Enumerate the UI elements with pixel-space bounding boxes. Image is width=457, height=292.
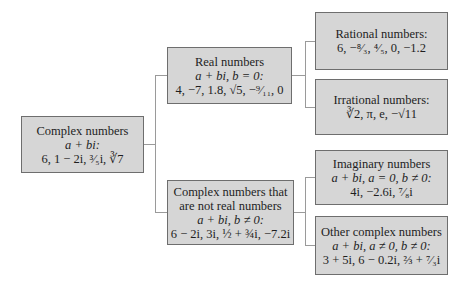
node-form: a + bi, b ≠ 0:	[197, 213, 264, 227]
node-title: Rational numbers:	[336, 27, 428, 41]
connector-to-imaginary	[305, 177, 315, 178]
node-real-numbers: Real numbers a + bi, b = 0: 4, −7, 1.8, …	[167, 47, 292, 104]
connector-complex-branch	[155, 75, 156, 213]
connector-real-stem	[292, 75, 305, 76]
node-other-complex-numbers: Other complex numbers a + bi, a ≠ 0, b ≠…	[315, 216, 448, 275]
connector-to-real	[155, 75, 167, 76]
connector-to-irrational	[305, 107, 315, 108]
connector-complex-stem	[144, 144, 155, 145]
node-form: a + bi, b = 0:	[195, 69, 263, 83]
node-examples: 4i, −2.6i, ⁷⁄₈i	[350, 185, 413, 199]
node-examples: 4, −7, 1.8, √5, −⁹⁄₁₁, 0	[176, 83, 284, 97]
node-irrational-numbers: Irrational numbers: ∛2, π, e, −√11	[315, 79, 448, 135]
node-examples: 3 + 5i, 6 − 0.2i, ⅔ + ⁷⁄₃i	[323, 253, 440, 267]
node-title: Real numbers	[195, 55, 264, 69]
connector-real-branch	[305, 41, 306, 108]
node-examples: 6, −⁸⁄₃, ⁴⁄₅, 0, −1.2	[337, 41, 426, 55]
node-examples: ∛2, π, e, −√11	[346, 107, 417, 121]
node-form: a + bi:	[65, 138, 100, 152]
node-rational-numbers: Rational numbers: 6, −⁸⁄₃, ⁴⁄₅, 0, −1.2	[315, 12, 448, 70]
connector-to-not-real	[155, 212, 167, 213]
node-title: Irrational numbers:	[333, 93, 429, 107]
node-not-real-numbers: Complex numbers that are not real number…	[167, 180, 294, 245]
node-complex-numbers: Complex numbers a + bi: 6, 1 − 2i, ³⁄₅i,…	[21, 116, 144, 173]
node-title: Complex numbers	[36, 124, 128, 138]
node-examples: 6 − 2i, 3i, ½ + ¾i, −7.2i	[171, 227, 290, 241]
node-title-line1: Complex numbers that	[174, 185, 288, 199]
node-title: Imaginary numbers	[333, 157, 431, 171]
node-examples: 6, 1 − 2i, ³⁄₅i, ∛7	[41, 152, 123, 166]
connector-not-real-stem	[294, 212, 305, 213]
connector-not-real-branch	[305, 177, 306, 246]
connector-to-rational	[305, 41, 315, 42]
node-title: Other complex numbers	[321, 225, 442, 239]
node-form: a + bi, a = 0, b ≠ 0:	[331, 171, 431, 185]
node-form: a + bi, a ≠ 0, b ≠ 0:	[332, 239, 431, 253]
connector-to-other	[305, 245, 315, 246]
node-title-line2: are not real numbers	[179, 199, 281, 213]
node-imaginary-numbers: Imaginary numbers a + bi, a = 0, b ≠ 0: …	[315, 150, 448, 205]
